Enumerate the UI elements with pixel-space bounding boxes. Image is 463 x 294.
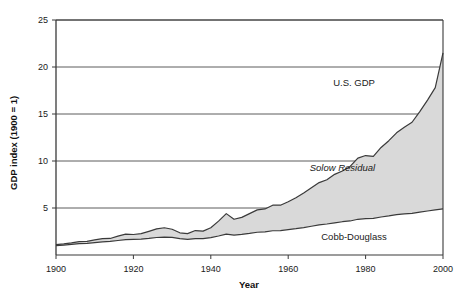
annotation-us-gdp: U.S. GDP (333, 77, 375, 88)
x-tick-label-1980: 1980 (356, 264, 376, 274)
x-tick-label-2000: 2000 (433, 264, 453, 274)
x-tick-label-1940: 1940 (201, 264, 221, 274)
y-tick-label-20: 20 (38, 62, 48, 72)
y-tick-label-15: 15 (38, 109, 48, 119)
annotation-cobb-douglass: Cobb-Douglass (321, 231, 387, 242)
y-tick-label-5: 5 (43, 203, 48, 213)
y-tick-label-10: 10 (38, 156, 48, 166)
y-axis-title: GDP index (1900 = 1) (8, 96, 19, 190)
x-axis-title: Year (239, 279, 259, 290)
x-tick-label-1920: 1920 (123, 264, 143, 274)
x-tick-label-1960: 1960 (278, 264, 298, 274)
x-tick-label-1900: 1900 (46, 264, 66, 274)
gdp-growth-accounting-chart: 252015105 190019201940196019802000 GDP i… (0, 0, 463, 294)
chart-canvas: 252015105 190019201940196019802000 GDP i… (0, 0, 463, 294)
y-tick-label-25: 25 (38, 15, 48, 25)
annotation-solow-residual: Solow Residual (310, 162, 376, 173)
